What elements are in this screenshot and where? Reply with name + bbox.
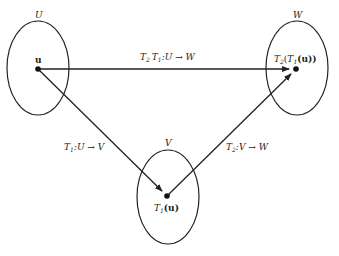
arrow-T1 <box>38 69 162 191</box>
set-W-label: W <box>293 10 303 20</box>
set-U-label: U <box>35 10 43 20</box>
arrow-T2-label: T2:V → W <box>226 142 269 153</box>
composition-diagram: U W V u T1(u) T2(T1(u)) T2T1:U → W T1:U … <box>0 0 339 256</box>
arrow-T1-label: T1:U → V <box>64 142 106 153</box>
point-u <box>35 66 41 72</box>
point-T1u-label: T1(u) <box>154 203 179 214</box>
point-T1u <box>164 193 170 199</box>
point-u-label: u <box>35 55 42 65</box>
point-T2T1u-label: T2(T1(u)) <box>274 54 317 65</box>
set-V-label: V <box>165 138 173 148</box>
arrow-composition-label: T2T1:U → W <box>140 52 196 63</box>
arrow-T2 <box>167 74 291 196</box>
point-T2T1u <box>293 66 299 72</box>
